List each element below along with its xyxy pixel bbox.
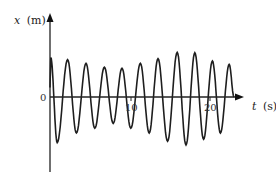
x-tick-label-10: 10	[125, 102, 138, 113]
y-axis-label: x (m)	[14, 14, 46, 27]
y-axis-variable: x	[14, 14, 21, 27]
y-axis-unit: (m)	[27, 14, 46, 27]
origin-label: 0	[40, 92, 46, 103]
oscillation-curve	[50, 52, 234, 145]
x-tick-label-20: 20	[204, 102, 217, 113]
x-axis-unit: (s)	[263, 100, 276, 113]
displacement-time-chart: x (m) t (s) 0 10 20	[0, 0, 276, 182]
y-axis-arrow-icon	[47, 13, 54, 22]
x-axis-arrow-icon	[235, 94, 244, 101]
x-axis-variable: t	[252, 100, 257, 113]
x-axis-label: t (s)	[252, 100, 276, 113]
